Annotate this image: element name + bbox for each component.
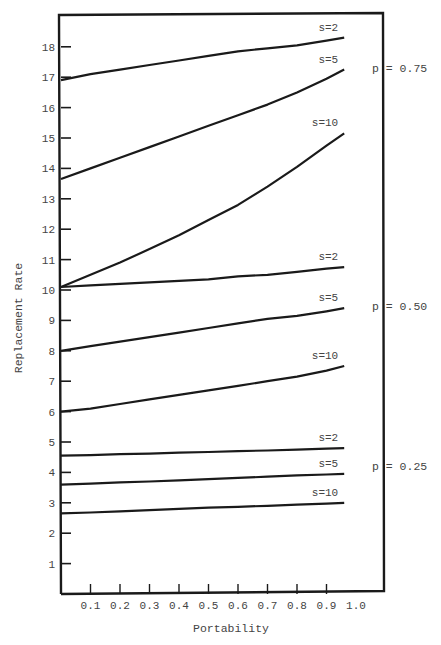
y-tick-label: 11 <box>42 255 56 267</box>
y-tick-label: 14 <box>42 163 56 175</box>
x-tick-label: 0.6 <box>228 600 248 612</box>
series-line-050-s5 <box>61 308 344 351</box>
x-tick-label: 0.7 <box>258 600 278 612</box>
y-tick-label: 13 <box>42 194 55 206</box>
y-tick-label: 1 <box>48 559 55 571</box>
series-labels: s=2s=5s=10p = 0.75s=2s=5s=10p = 0.50s=2s… <box>312 22 428 499</box>
y-tick-label: 6 <box>48 407 55 419</box>
y-tick-label: 3 <box>48 498 55 510</box>
series-label: s=10 <box>312 487 338 499</box>
group-label: p = 0.25 <box>372 460 427 473</box>
x-tick-label: 0.8 <box>287 600 307 612</box>
group-label: p = 0.50 <box>372 300 427 313</box>
x-tick-label: 1.0 <box>346 600 366 612</box>
y-tick-label: 8 <box>48 346 55 358</box>
y-axis-title: Replacement Rate <box>12 263 25 374</box>
y-tick-label: 9 <box>48 315 55 327</box>
y-tick-label: 10 <box>42 285 55 297</box>
x-tick-label: 0.1 <box>81 600 101 612</box>
y-tick-label: 18 <box>42 42 55 54</box>
series-label: s=2 <box>318 432 338 444</box>
series-label: s=5 <box>318 458 338 470</box>
series-label: s=5 <box>318 292 338 304</box>
y-tick-label: 15 <box>42 133 55 145</box>
x-tick-label: 0.4 <box>169 600 189 612</box>
y-tick-label: 17 <box>42 72 55 84</box>
group-label: p = 0.75 <box>372 62 427 75</box>
x-tick-label: 0.3 <box>140 600 160 612</box>
y-axis-ticks: 123456789101112131415161718 <box>42 42 71 571</box>
series-label: s=10 <box>312 350 338 362</box>
y-tick-label: 16 <box>42 103 55 115</box>
x-tick-label: 0.9 <box>317 600 337 612</box>
y-tick-label: 5 <box>48 437 55 449</box>
series-line-050-s10 <box>61 366 344 412</box>
series-line-025-s10 <box>61 503 344 514</box>
series-label: s=2 <box>318 22 338 34</box>
y-tick-label: 2 <box>48 528 55 540</box>
x-axis-title: Portability <box>193 622 269 635</box>
x-tick-label: 0.2 <box>110 600 130 612</box>
chart: 123456789101112131415161718 0.10.20.30.4… <box>0 0 441 645</box>
series-line-025-s5 <box>61 474 344 485</box>
series-line-075-s2 <box>61 38 344 80</box>
series-line-075-s10 <box>61 133 344 287</box>
series-label: s=5 <box>318 54 338 66</box>
series-label: s=10 <box>312 117 338 129</box>
x-tick-label: 0.5 <box>199 600 219 612</box>
y-tick-label: 7 <box>48 376 55 388</box>
series-line-025-s2 <box>61 448 344 456</box>
series-lines <box>61 38 344 514</box>
series-label: s=2 <box>318 251 338 263</box>
x-axis-ticks: 0.10.20.30.40.50.60.70.80.91.0 <box>81 584 366 612</box>
y-tick-label: 12 <box>42 224 55 236</box>
y-tick-label: 4 <box>48 467 55 479</box>
